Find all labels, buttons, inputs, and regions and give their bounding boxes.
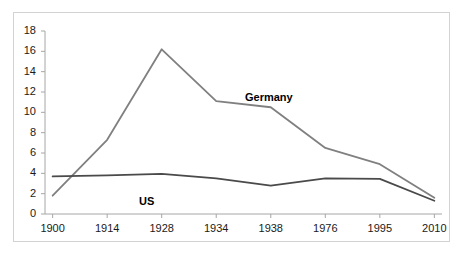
y-tick-label: 12 xyxy=(14,86,36,97)
y-tick-label: 4 xyxy=(14,167,36,178)
x-tick-label: 2010 xyxy=(411,223,457,234)
y-tick-label: 8 xyxy=(14,127,36,138)
y-tick-label: 2 xyxy=(14,188,36,199)
series-label-germany: Germany xyxy=(245,91,293,103)
series-label-us: US xyxy=(139,195,154,207)
x-tick-label: 1928 xyxy=(139,223,185,234)
y-tick-label: 10 xyxy=(14,106,36,117)
x-tick-label: 1938 xyxy=(248,223,294,234)
x-axis-ticks xyxy=(53,214,435,218)
y-tick-label: 0 xyxy=(14,208,36,219)
series-lines xyxy=(53,49,435,200)
y-axis-ticks xyxy=(41,31,45,214)
y-tick-label: 18 xyxy=(14,25,36,36)
x-tick-label: 1900 xyxy=(30,223,76,234)
y-tick-label: 6 xyxy=(14,147,36,158)
y-tick-label: 14 xyxy=(14,66,36,77)
x-tick-label: 1976 xyxy=(302,223,348,234)
x-tick-label: 1995 xyxy=(357,223,403,234)
chart-container: 024681012141618 190019141928193419381976… xyxy=(0,0,463,260)
chart-frame: 024681012141618 190019141928193419381976… xyxy=(13,12,450,242)
x-tick-label: 1914 xyxy=(84,223,130,234)
series-line-us xyxy=(53,174,435,201)
y-tick-label: 16 xyxy=(14,45,36,56)
x-tick-label: 1934 xyxy=(193,223,239,234)
line-chart-plot xyxy=(14,13,449,241)
